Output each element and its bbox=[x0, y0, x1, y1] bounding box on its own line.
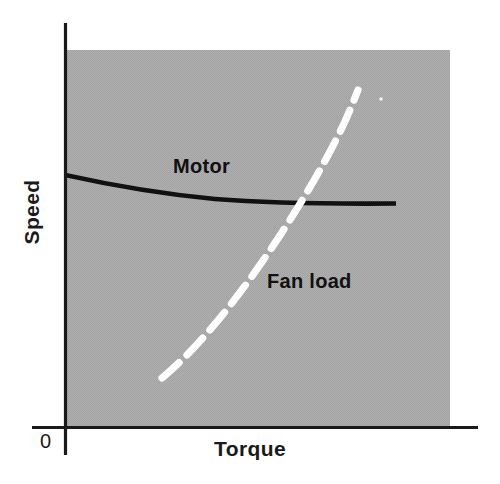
motor-curve-label: Motor bbox=[173, 155, 230, 178]
scan-speck bbox=[379, 97, 383, 101]
speed-torque-chart: Speed Torque 0 Motor Fan load bbox=[0, 0, 500, 484]
chart-canvas bbox=[0, 0, 500, 484]
plot-area-background bbox=[65, 50, 450, 427]
y-axis-title: Speed bbox=[20, 132, 44, 292]
fan-load-curve-label: Fan load bbox=[267, 270, 352, 293]
x-axis-title: Torque bbox=[0, 437, 500, 461]
origin-tick-label: 0 bbox=[40, 430, 51, 453]
